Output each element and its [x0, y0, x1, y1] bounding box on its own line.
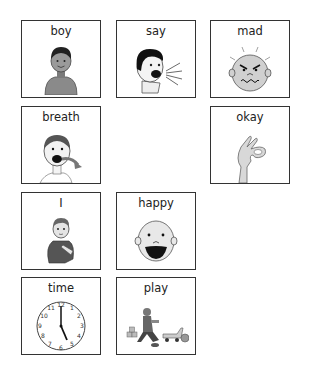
pointing-self-icon [41, 213, 81, 267]
svg-text:2: 2 [77, 312, 81, 319]
card-say[interactable]: say [116, 20, 196, 98]
svg-text:9: 9 [38, 322, 42, 329]
svg-text:4: 4 [77, 332, 81, 339]
card-breath[interactable]: breath [21, 106, 101, 184]
ok-hand-sign-icon [225, 127, 275, 183]
card-play[interactable]: play [116, 277, 196, 355]
card-time[interactable]: time 1212 345 678 91011 [21, 277, 101, 355]
card-happy[interactable]: happy [116, 192, 196, 270]
svg-text:3: 3 [80, 322, 84, 329]
card-label: okay [211, 111, 289, 124]
child-playing-toys-icon [123, 298, 189, 352]
svg-text:8: 8 [41, 332, 45, 339]
card-mad[interactable]: mad [210, 20, 290, 98]
speaking-head-icon [128, 41, 184, 95]
svg-text:10: 10 [40, 312, 48, 319]
svg-text:6: 6 [59, 344, 63, 351]
card-label: breath [22, 111, 100, 124]
card-label: boy [22, 25, 100, 38]
card-label: mad [211, 25, 289, 38]
card-label: happy [117, 197, 195, 210]
angry-face-icon [222, 41, 278, 95]
card-i[interactable]: I [21, 192, 101, 270]
card-label: say [117, 25, 195, 38]
happy-face-icon [128, 213, 184, 267]
card-label: time [22, 282, 100, 295]
card-boy[interactable]: boy [21, 20, 101, 98]
boy-icon [41, 41, 81, 95]
card-okay[interactable]: okay [210, 106, 290, 184]
card-label: I [22, 197, 100, 210]
svg-text:7: 7 [48, 340, 52, 347]
breathing-face-icon [36, 127, 86, 183]
svg-text:1: 1 [70, 304, 74, 311]
card-label: play [117, 282, 195, 295]
clock-icon: 1212 345 678 91011 [34, 298, 88, 352]
svg-text:11: 11 [47, 304, 55, 311]
svg-text:5: 5 [70, 340, 74, 347]
